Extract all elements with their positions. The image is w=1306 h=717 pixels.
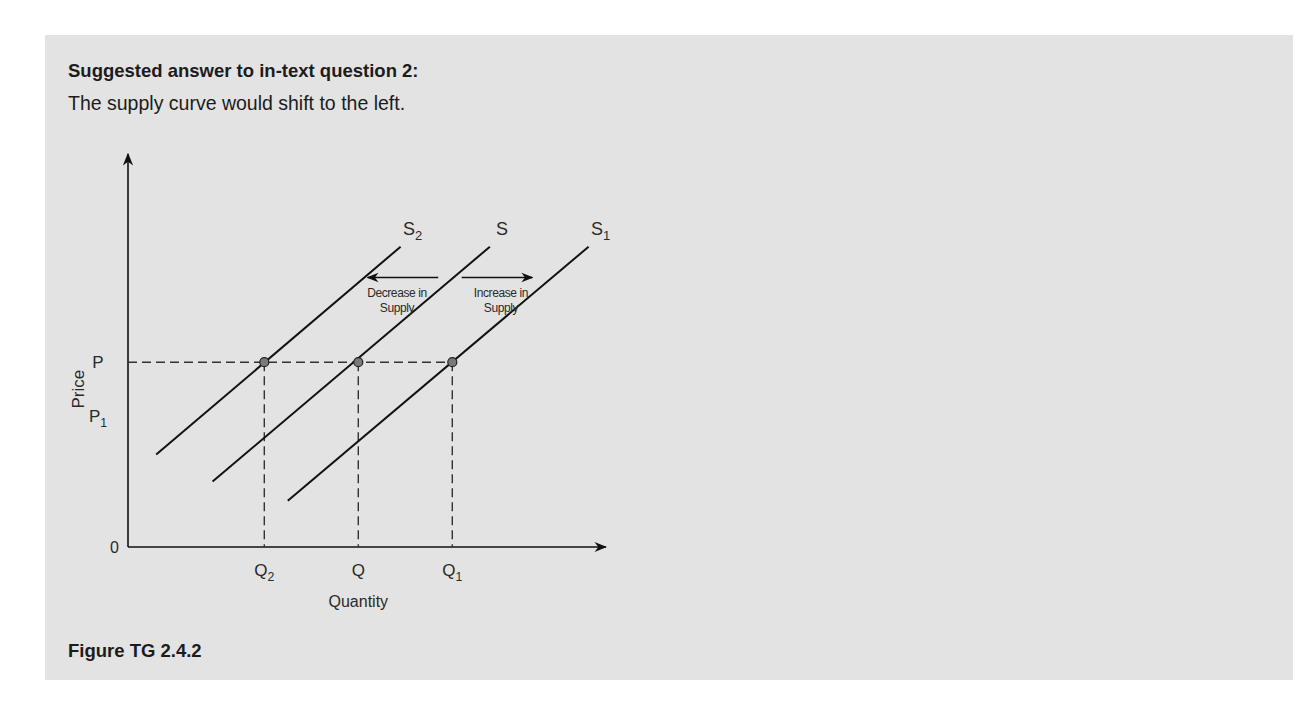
- x-axis-label: Quantity: [329, 593, 389, 610]
- increase-label-line1: Increase in: [474, 286, 528, 300]
- price-label-p1: P1: [89, 407, 107, 430]
- increase-label-line2: Supply: [484, 301, 519, 315]
- price-label-p: P: [92, 353, 103, 372]
- equilibrium-point-1: [260, 358, 269, 367]
- curve-label-s1: S1: [591, 219, 610, 243]
- curve-label-s2: S2: [403, 219, 422, 243]
- y-axis-label: Price: [69, 370, 88, 409]
- supply-curve-s1: [288, 247, 589, 501]
- equilibrium-point-3: [448, 358, 457, 367]
- quantity-label-q2: Q2: [254, 561, 274, 584]
- decrease-label-line1: Decrease in: [367, 286, 427, 300]
- decrease-label-line2: Supply: [380, 301, 415, 315]
- quantity-label-q1: Q1: [442, 561, 462, 584]
- supply-curve-s2: [156, 247, 400, 455]
- supply-shift-chart: 0 Price Quantity PP1Q2QQ1S2SS1Decrease i…: [0, 0, 1306, 717]
- chart-marks: PP1Q2QQ1S2SS1Decrease inSupplyIncrease i…: [89, 219, 610, 584]
- equilibrium-point-2: [354, 358, 363, 367]
- quantity-label-q: Q: [352, 561, 365, 580]
- curve-label-s: S: [496, 219, 508, 239]
- origin-label: 0: [110, 539, 119, 556]
